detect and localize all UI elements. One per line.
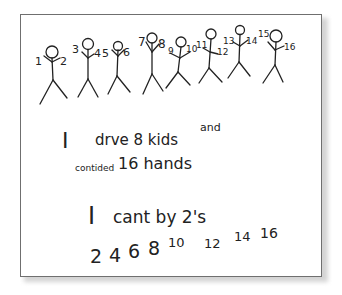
count-6: 6: [128, 240, 140, 262]
text-line1-i: I: [62, 128, 69, 153]
text-line2: 16 hands: [118, 154, 192, 173]
text-line2-word: contided: [75, 163, 114, 173]
count-16: 16: [260, 225, 278, 241]
stick-figure-2: 3 4: [72, 39, 101, 98]
hand-number: 3: [72, 43, 79, 56]
stick-figure-3: 5 6: [102, 42, 130, 95]
count-12: 12: [204, 236, 221, 251]
hand-number: 8: [158, 37, 166, 51]
hand-number: 1: [35, 55, 42, 68]
hand-number: 15: [258, 29, 269, 39]
count-14: 14: [234, 229, 251, 244]
stick-figure-8: 15 16: [258, 29, 296, 83]
count-4: 4: [109, 244, 121, 266]
stick-figure-4: 7 8: [138, 33, 166, 94]
hand-number: 6: [123, 46, 130, 59]
hand-number: 9: [168, 46, 174, 56]
text-line1-and: and: [200, 121, 221, 134]
count-8: 8: [148, 237, 160, 259]
hand-number: 4: [94, 47, 101, 60]
hand-number: 13: [223, 36, 234, 46]
stick-figure-1: 1 2: [35, 46, 67, 104]
text-line1: drve 8 kids: [95, 131, 178, 149]
hand-number: 7: [138, 35, 146, 49]
hand-number: 14: [246, 36, 258, 46]
text-line3: cant by 2's: [113, 207, 206, 227]
hand-number: 5: [102, 47, 109, 60]
handwritten-text: I drve 8 kids and contided 16 hands I ca…: [62, 121, 278, 267]
hand-number: 2: [60, 55, 67, 68]
stick-figure-5: 9 10: [166, 37, 198, 88]
text-line3-i: I: [88, 202, 95, 230]
hand-number: 11: [196, 40, 207, 50]
count-10: 10: [168, 235, 185, 250]
hand-number: 12: [217, 47, 228, 57]
handwritten-drawing: 1 2 3 4 5 6 7 8: [0, 0, 342, 295]
hand-number: 16: [284, 42, 296, 52]
count-2: 2: [90, 245, 102, 267]
